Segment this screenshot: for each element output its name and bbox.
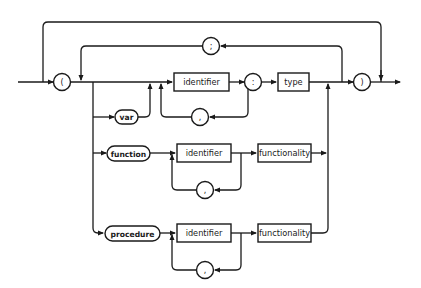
comma-terminal-var: ,: [192, 109, 209, 126]
type-box: type: [278, 73, 309, 91]
var-keyword: var: [115, 110, 138, 124]
semicolon-label: ;: [210, 42, 213, 51]
comma-label: ,: [204, 186, 207, 195]
procedure-label: procedure: [111, 230, 155, 239]
functionality-label: functionality: [259, 228, 310, 238]
identifier-label: identifier: [186, 148, 223, 158]
identifier-label: identifier: [183, 77, 220, 87]
procedure-keyword: procedure: [105, 226, 160, 241]
close-paren-label: ): [360, 78, 363, 87]
var-label: var: [120, 113, 134, 122]
comma-terminal-function: ,: [197, 182, 214, 199]
semicolon-terminal: ;: [203, 38, 220, 55]
function-keyword: function: [107, 146, 150, 161]
branch-spine: [93, 82, 98, 233]
functionality-box-function: functionality: [258, 144, 311, 162]
comma-terminal-procedure: ,: [197, 262, 214, 279]
identifier-box-function: identifier: [177, 144, 231, 162]
colon-label: :: [252, 78, 255, 87]
function-label: function: [111, 150, 146, 159]
identifier-box-var: identifier: [174, 73, 229, 91]
syntax-diagram: ; ( var identifier , : type ): [0, 0, 421, 288]
open-paren-label: (: [60, 78, 63, 87]
comma-label: ,: [204, 266, 207, 275]
open-paren-terminal: (: [54, 74, 71, 91]
type-label: type: [284, 77, 302, 87]
functionality-label: functionality: [259, 148, 310, 158]
identifier-label: identifier: [186, 228, 223, 238]
colon-terminal: :: [245, 74, 262, 91]
identifier-box-procedure: identifier: [177, 224, 231, 242]
functionality-box-procedure: functionality: [258, 224, 311, 242]
comma-label: ,: [199, 113, 202, 122]
close-paren-terminal: ): [354, 74, 371, 91]
